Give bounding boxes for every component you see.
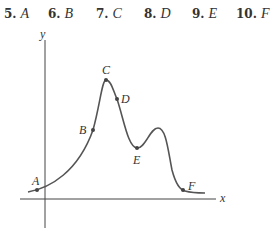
x-axis-label: x	[219, 191, 226, 205]
point-a-label: A	[31, 174, 40, 188]
point-d	[115, 97, 119, 101]
point-a	[35, 188, 39, 192]
point-b-label: B	[79, 123, 87, 137]
function-curve	[28, 80, 205, 193]
point-e-label: E	[132, 153, 141, 167]
point-c-label: C	[102, 63, 111, 77]
point-d-label: D	[120, 92, 130, 106]
point-e	[135, 146, 139, 150]
point-f-label: F	[187, 179, 196, 193]
point-c	[104, 78, 108, 82]
point-f	[181, 188, 185, 192]
y-axis-label: y	[39, 27, 46, 41]
point-b	[91, 128, 95, 132]
function-graph: y x A B C D E F	[0, 0, 273, 233]
